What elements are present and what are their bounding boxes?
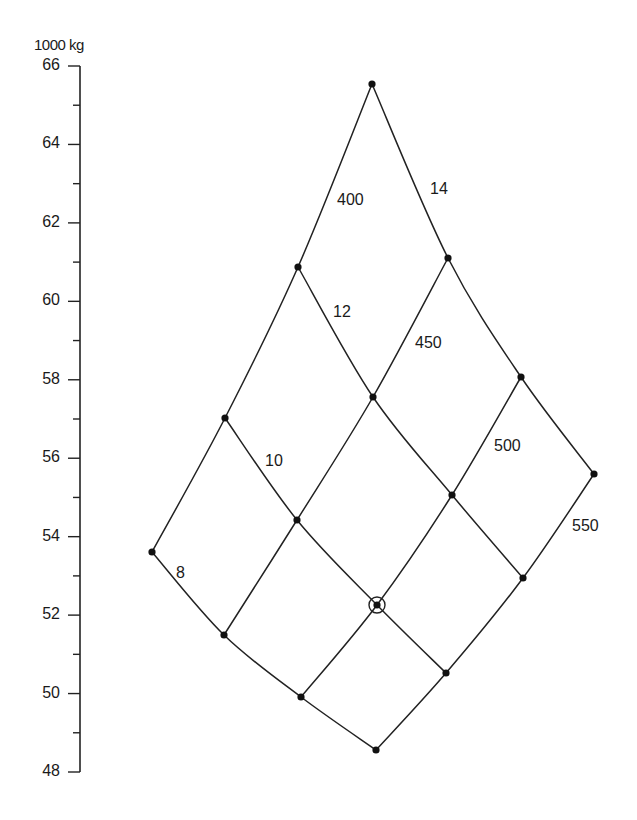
y-tick-label: 56 [20,448,60,466]
curve-label: 500 [494,437,521,455]
y-tick-label: 66 [20,56,60,74]
y-tick-label: 64 [20,134,60,152]
y-tick-label: 58 [20,370,60,388]
y-axis-unit-label: 1000 kg [34,36,84,53]
curve-label: 550 [572,517,599,535]
curve-label: 8 [176,564,185,582]
y-axis [68,66,80,772]
carpet-lines [152,84,594,750]
curve-label: 450 [415,334,442,352]
curve-label: 14 [430,180,448,198]
carpet-chart [0,0,637,820]
y-tick-label: 54 [20,527,60,545]
y-tick-label: 60 [20,291,60,309]
y-tick-label: 48 [20,762,60,780]
curve-label: 400 [337,191,364,209]
y-tick-label: 50 [20,684,60,702]
curve-label: 10 [265,452,283,470]
y-tick-label: 62 [20,213,60,231]
carpet-nodes [148,80,597,753]
curve-label: 12 [333,303,351,321]
y-tick-label: 52 [20,605,60,623]
